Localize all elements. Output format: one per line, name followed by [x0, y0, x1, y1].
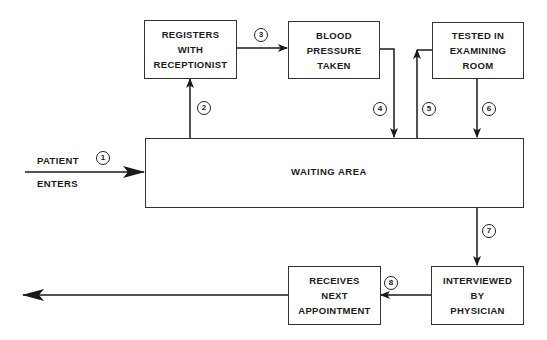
- node-text: ROOM: [463, 58, 494, 73]
- node-text: BLOOD: [316, 28, 352, 43]
- step-badge-5: 5: [422, 102, 436, 116]
- step-badge-4: 4: [373, 102, 387, 116]
- waiting-area-label: WAITING AREA: [291, 166, 367, 177]
- node-text: WITH: [178, 42, 203, 57]
- node-text: TESTED IN: [452, 28, 504, 43]
- step-badge-8: 8: [384, 276, 398, 290]
- node-text: RECEIVES: [309, 273, 359, 288]
- node-text: NEXT: [321, 288, 348, 303]
- node-text: TAKEN: [317, 58, 351, 73]
- node-registers-with-receptionist: REGISTERS WITH RECEPTIONIST: [144, 20, 237, 79]
- node-tested-in-examining-room: TESTED IN EXAMINING ROOM: [432, 22, 524, 79]
- node-text: RECEPTIONIST: [154, 57, 228, 72]
- node-text: APPOINTMENT: [298, 303, 370, 318]
- node-receives-next-appointment: RECEIVES NEXT APPOINTMENT: [288, 266, 381, 325]
- node-interviewed-by-physician: INTERVIEWED BY PHYSICIAN: [431, 266, 524, 325]
- entry-label-line2: ENTERS: [37, 178, 78, 189]
- arrow-step-4: [380, 49, 394, 137]
- entry-label-line1: PATIENT: [37, 155, 79, 166]
- step-badge-2: 2: [197, 101, 211, 115]
- node-text: PHYSICIAN: [450, 303, 504, 318]
- node-text: PRESSURE: [307, 43, 362, 58]
- step-badge-6: 6: [482, 102, 496, 116]
- node-text: REGISTERS: [162, 27, 220, 42]
- node-text: EXAMINING: [450, 43, 507, 58]
- node-blood-pressure-taken: BLOOD PRESSURE TAKEN: [288, 21, 380, 79]
- step-badge-1: 1: [96, 151, 110, 165]
- node-text: INTERVIEWED: [443, 273, 512, 288]
- node-text: BY: [471, 288, 485, 303]
- step-badge-7: 7: [482, 224, 496, 238]
- step-badge-3: 3: [254, 28, 268, 42]
